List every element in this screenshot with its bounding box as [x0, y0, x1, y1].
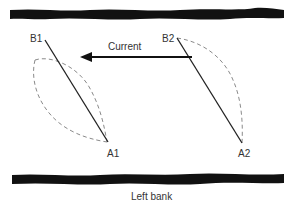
right-crossing-line — [177, 38, 242, 143]
label-b2: B2 — [162, 33, 175, 44]
label-a2: A2 — [238, 148, 251, 159]
current-arrow-head-icon — [80, 52, 92, 62]
left-crossing-line — [45, 40, 108, 142]
top-bank — [10, 8, 284, 20]
label-b1: B1 — [30, 33, 43, 44]
left-dashed-path — [35, 59, 107, 142]
label-a1: A1 — [107, 148, 120, 159]
label-current: Current — [108, 41, 142, 52]
left-bank — [12, 173, 284, 184]
label-left-bank: Left bank — [131, 191, 173, 202]
river-crossing-diagram: B1 A1 B2 A2 Current Left bank — [0, 0, 294, 210]
